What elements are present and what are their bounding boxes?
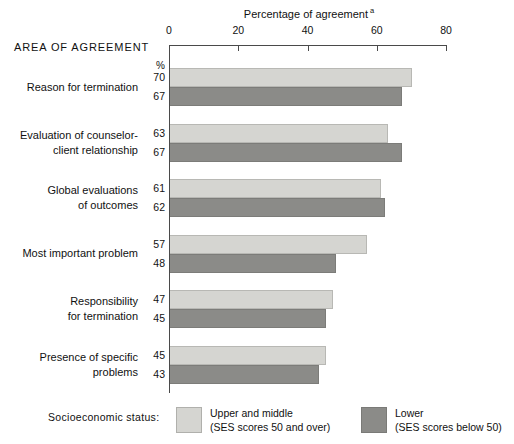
bar-row: 70 — [0, 68, 514, 87]
bar-lower — [170, 143, 402, 162]
legend: Socioeconomic status: Upper and middle(S… — [0, 404, 514, 444]
bar-value-label: 45 — [140, 346, 165, 365]
bar-row: 45 — [0, 309, 514, 328]
bar-row: 67 — [0, 87, 514, 106]
bar-lower — [170, 198, 385, 217]
bar-group: Responsibilityfor termination4745 — [0, 290, 514, 328]
legend-title: Socioeconomic status: — [48, 411, 159, 423]
bar-value-label: 61 — [140, 179, 165, 198]
bar-value-label: 47 — [140, 290, 165, 309]
bar-lower — [170, 365, 319, 384]
bar-value-label: 63 — [140, 124, 165, 143]
bar-chart: Percentage of agreementa 020406080 AREA … — [0, 0, 514, 444]
bar-value-label: 43 — [140, 365, 165, 384]
bar-value-label: 62 — [140, 198, 165, 217]
bar-upper — [170, 235, 367, 254]
bar-value-label: 67 — [140, 143, 165, 162]
bar-row: 62 — [0, 198, 514, 217]
bar-upper — [170, 290, 333, 309]
bar-value-label: 57 — [140, 235, 165, 254]
bar-row: 67 — [0, 143, 514, 162]
bar-group: Presence of specificproblems4543 — [0, 346, 514, 384]
bar-row: 45 — [0, 346, 514, 365]
bar-group: Most important problem5748 — [0, 235, 514, 273]
bar-group: Reason for termination7067 — [0, 68, 514, 106]
bar-row: 47 — [0, 290, 514, 309]
bar-value-label: 48 — [140, 254, 165, 273]
bar-row: 48 — [0, 254, 514, 273]
legend-label-lower: Lower(SES scores below 50) — [395, 406, 502, 434]
bar-upper — [170, 346, 326, 365]
bar-groups: Reason for termination7067Evaluation of … — [0, 0, 514, 444]
legend-label-line2: (SES scores below 50) — [395, 420, 502, 434]
x-tick-mark-80 — [446, 45, 447, 51]
bar-value-label: 67 — [140, 87, 165, 106]
bar-upper — [170, 68, 412, 87]
legend-label-upper: Upper and middle(SES scores 50 and over) — [210, 406, 330, 434]
legend-label-line2: (SES scores 50 and over) — [210, 420, 330, 434]
bar-value-label: 70 — [140, 68, 165, 87]
legend-swatch-upper — [176, 407, 202, 433]
bar-row: 63 — [0, 124, 514, 143]
legend-label-line1: Lower — [395, 406, 502, 420]
bar-row: 61 — [0, 179, 514, 198]
x-tick-mark-60 — [377, 45, 378, 51]
legend-swatch-lower — [361, 407, 387, 433]
bar-group: Evaluation of counselor-client relations… — [0, 124, 514, 162]
legend-label-line1: Upper and middle — [210, 406, 330, 420]
x-tick-mark-20 — [238, 45, 239, 51]
bar-upper — [170, 124, 388, 143]
bar-row: 57 — [0, 235, 514, 254]
bar-value-label: 45 — [140, 309, 165, 328]
bar-upper — [170, 179, 381, 198]
bar-lower — [170, 254, 336, 273]
bar-group: Global evaluationsof outcomes6162 — [0, 179, 514, 217]
x-tick-mark-40 — [308, 45, 309, 51]
bar-lower — [170, 309, 326, 328]
bar-row: 43 — [0, 365, 514, 384]
bar-lower — [170, 87, 402, 106]
